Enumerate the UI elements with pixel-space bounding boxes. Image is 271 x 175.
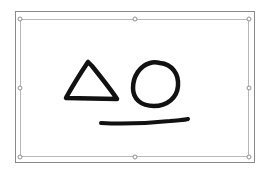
ink-triangle[interactable] [66, 62, 117, 99]
resize-handle-top-center[interactable] [133, 17, 138, 22]
ink-underline[interactable] [101, 119, 188, 123]
resize-handle-middle-right[interactable] [247, 86, 252, 91]
ink-drawing[interactable] [0, 0, 271, 175]
ink-circle[interactable] [133, 62, 178, 106]
resize-handle-top-left[interactable] [18, 17, 23, 22]
resize-handle-top-right[interactable] [247, 17, 252, 22]
resize-handle-bottom-left[interactable] [18, 155, 23, 160]
resize-handle-bottom-center[interactable] [133, 155, 138, 160]
resize-handle-middle-left[interactable] [18, 86, 23, 91]
resize-handle-bottom-right[interactable] [247, 155, 252, 160]
